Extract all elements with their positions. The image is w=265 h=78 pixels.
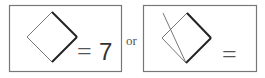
- equation-figure: = 7 or =: [0, 0, 265, 78]
- left-diamond-edge-bottom-left: [27, 37, 52, 62]
- right-diamond-edge-bottom-right-bold: [186, 38, 211, 63]
- right-diamond-edge-bottom-left: [162, 38, 186, 63]
- right-panel: =: [144, 6, 257, 72]
- or-connector: or: [126, 33, 138, 48]
- right-diamond-edge-top-left: [162, 13, 187, 38]
- left-value: 7: [99, 38, 112, 65]
- left-panel: = 7: [10, 6, 122, 72]
- right-equals-sign: =: [222, 40, 237, 69]
- right-diagonal-cut-line: [163, 13, 186, 63]
- left-diamond-edge-top-left: [27, 12, 52, 37]
- left-equals-sign: =: [77, 37, 92, 66]
- right-diamond-edge-top-right-bold: [187, 13, 211, 38]
- left-diamond-edge-bottom-right-bold: [52, 37, 77, 62]
- left-diamond-edge-top-right-bold: [52, 12, 77, 37]
- right-frame: [144, 6, 257, 72]
